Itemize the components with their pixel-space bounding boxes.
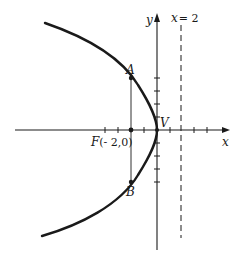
- point-b-label: B: [125, 185, 135, 199]
- x-axis: [15, 127, 230, 133]
- point-a-label: A: [125, 63, 135, 77]
- y-axis-arrow-icon: [154, 13, 160, 22]
- y-axis-label: y: [145, 13, 153, 27]
- vertex-label: V: [160, 116, 170, 130]
- parabola-diagram: y x x= 2 A B V F(- 2,0): [0, 0, 246, 262]
- directrix-label: x= 2: [171, 11, 199, 25]
- x-axis-arrow-icon: [222, 127, 230, 133]
- focus-label: F(- 2,0): [90, 135, 133, 149]
- vertex-dot: [155, 128, 159, 132]
- focus-dot: [129, 128, 134, 133]
- point-b-dot: [129, 180, 133, 184]
- x-axis-label: x: [222, 135, 229, 149]
